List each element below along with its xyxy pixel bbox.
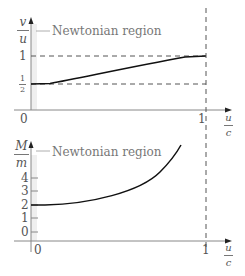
bottom-x-den: c <box>226 258 232 268</box>
top-x-tick-one: 1 <box>198 113 206 125</box>
newtonian-region-top <box>31 24 37 110</box>
top-y-axis-label: v u <box>17 16 29 45</box>
bottom-y-axis-label: M m <box>14 140 29 169</box>
chart-canvas <box>0 0 245 276</box>
bottom-origin-label: 0 <box>34 244 42 256</box>
top-x-axis-label: u c <box>224 113 233 138</box>
bottom-y-arrow-icon <box>29 141 34 148</box>
top-origin-label: 0 <box>20 113 28 125</box>
top-half-num: 1 <box>20 75 25 83</box>
bottom-tick-1: 1 <box>21 212 29 224</box>
bottom-tick-4: 4 <box>21 172 29 184</box>
top-x-den: c <box>226 128 232 138</box>
bottom-x-tick-one: 1 <box>202 244 210 256</box>
top-tick-one: 1 <box>19 50 27 62</box>
top-newtonian-note: Newtonian region <box>52 24 162 38</box>
bottom-tick-2: 2 <box>21 199 29 211</box>
bottom-tick-0: 0 <box>21 226 29 238</box>
top-curve <box>31 56 206 84</box>
bottom-tick-3: 3 <box>21 185 29 197</box>
top-x-num: u <box>225 113 231 123</box>
bottom-x-num: u <box>225 243 231 253</box>
top-tick-half: 1 2 <box>19 75 26 94</box>
bottom-y-den: m <box>16 157 27 169</box>
bottom-x-axis-label: u c <box>224 243 233 268</box>
bottom-y-num: M <box>15 140 27 152</box>
top-y-den: u <box>19 33 27 45</box>
newtonian-region-bottom <box>31 155 37 241</box>
top-half-den: 2 <box>20 86 25 94</box>
bottom-newtonian-note: Newtonian region <box>52 145 162 159</box>
top-y-num: v <box>20 16 27 28</box>
top-y-arrow-icon <box>29 17 34 24</box>
